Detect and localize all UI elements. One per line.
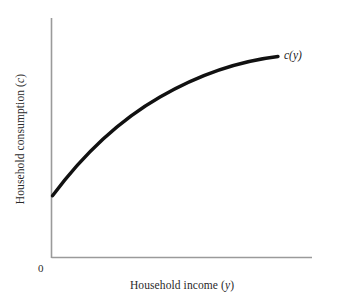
- x-axis-label-suffix: ): [230, 279, 234, 291]
- y-axis-label-text: Household consumption (: [14, 83, 26, 204]
- x-axis-label: Household income (y): [51, 279, 313, 291]
- y-axis-label: Household consumption (c): [14, 44, 26, 234]
- y-axis-label-suffix: ): [14, 74, 26, 78]
- chart-plot-area: [0, 0, 340, 302]
- consumption-curve: [53, 57, 279, 196]
- y-axis-label-symbol: c: [14, 78, 26, 83]
- curve-label: c(y): [284, 49, 302, 61]
- origin-label: 0: [38, 262, 44, 274]
- consumption-function-figure: Household consumption (c) Household inco…: [0, 0, 340, 302]
- x-axis-label-text: Household income (: [130, 279, 225, 291]
